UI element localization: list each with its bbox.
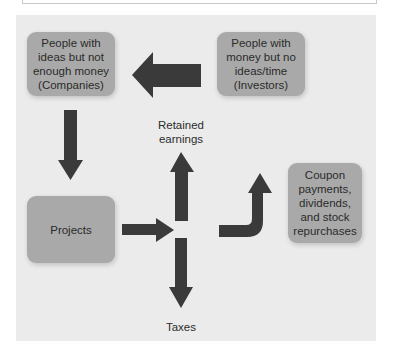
arrow-left-icon [132, 52, 201, 98]
curved-arrow-up-icon [219, 173, 272, 237]
arrow-down-taxes-icon [169, 238, 193, 308]
arrow-up-icon [170, 152, 194, 221]
arrow-down-icon [58, 110, 83, 180]
arrow-right-icon [122, 218, 174, 242]
